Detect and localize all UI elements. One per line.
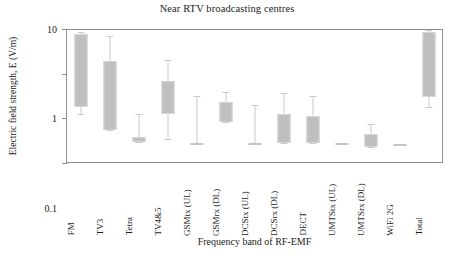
box-body	[364, 134, 377, 147]
box-plot-item[interactable]	[124, 29, 153, 163]
whisker-cap-low	[280, 143, 287, 144]
whisker-cap-high	[135, 114, 142, 115]
whisker-cap-high	[193, 96, 200, 97]
x-tick-label: DCSrx (DL)	[274, 212, 284, 257]
y-tick-label: 10	[47, 24, 57, 35]
x-tick-label: DCStx (UL)	[245, 213, 255, 258]
x-tick-label-text: Total	[414, 217, 424, 235]
box-body	[219, 102, 232, 122]
box-body-flat	[335, 143, 348, 145]
box-plot-item[interactable]	[269, 29, 298, 163]
x-tick-label-text: GSMrx (DL)	[211, 189, 221, 236]
x-tick-label-text: UMTSrx (DL)	[356, 183, 366, 236]
whisker-cap-high	[106, 36, 113, 37]
whisker-cap-low	[164, 139, 171, 140]
box-body-flat	[248, 143, 261, 145]
box-plot-item[interactable]	[95, 29, 124, 163]
x-tick-label-text: FM	[66, 222, 76, 235]
whisker-cap-high	[164, 60, 171, 61]
x-axis-tick-labels: FMTV3TetraTV4&5GSMtx (UL)GSMrx (DL)DCStx…	[66, 165, 443, 235]
plot-area: 1010.10.01	[66, 29, 443, 163]
whisker-cap-high	[425, 30, 432, 31]
x-tick-label: GSMtx (UL)	[187, 212, 197, 259]
y-tick-label: 1	[52, 113, 57, 124]
x-tick-label-text: TV4&5	[153, 208, 163, 236]
y-tick-label: 0.1	[45, 202, 58, 213]
whisker-cap-high	[309, 96, 316, 97]
box-plot-item[interactable]	[327, 29, 356, 163]
whisker-cap-low	[367, 147, 374, 148]
box-plot-item[interactable]	[414, 29, 443, 163]
box-body-flat	[190, 143, 203, 145]
whisker-cap-low	[425, 107, 432, 108]
x-tick-label: UMTStx (UL)	[332, 209, 342, 261]
whisker-cap-low	[106, 130, 113, 131]
x-tick-label-text: WiFi 2G	[385, 204, 395, 235]
box-plot-item[interactable]	[240, 29, 269, 163]
figure-container: Near RTV broadcasting centres Electric f…	[0, 0, 454, 262]
box-body	[74, 34, 87, 107]
x-tick-label-text: DCSrx (DL)	[269, 191, 279, 236]
whisker-cap-low	[309, 143, 316, 144]
box-body	[161, 81, 174, 114]
x-tick-label-text: TV3	[95, 219, 105, 236]
box-body	[277, 114, 290, 143]
box-plot-item[interactable]	[153, 29, 182, 163]
box-plot-item[interactable]	[298, 29, 327, 163]
y-axis-title-wrap: Electric field strength, E (V/m)	[6, 29, 20, 163]
x-tick-label-text: Tetra	[124, 217, 134, 235]
x-tick-label-text: DECT	[298, 212, 308, 236]
y-axis-title: Electric field strength, E (V/m)	[8, 37, 18, 155]
y-tick-mark: 0.01	[62, 163, 67, 164]
whisker-cap-high	[280, 93, 287, 94]
x-tick-label-text: UMTStx (UL)	[327, 184, 337, 236]
box-body	[103, 61, 116, 130]
x-tick-label-text: GSMtx (UL)	[182, 189, 192, 236]
x-tick-label-text: DCStx (UL)	[240, 191, 250, 236]
whisker-cap-low	[135, 142, 142, 143]
whisker-cap-high	[222, 92, 229, 93]
box-plot-item[interactable]	[211, 29, 240, 163]
whisker-cap-high	[251, 105, 258, 106]
whisker-cap-high	[367, 124, 374, 125]
whisker-cap-low	[222, 122, 229, 123]
chart-title: Near RTV broadcasting centres	[0, 3, 454, 14]
box-plot-item[interactable]	[182, 29, 211, 163]
box-body	[132, 137, 145, 142]
whisker-line	[196, 96, 197, 143]
box-body-flat	[393, 144, 406, 146]
box-body	[306, 116, 319, 143]
whisker-cap-low	[77, 114, 84, 115]
box-plot-item[interactable]	[385, 29, 414, 163]
box-plot-item[interactable]	[356, 29, 385, 163]
x-axis-title: Frequency band of RF-EMF	[66, 236, 443, 247]
box-plot-item[interactable]	[66, 29, 95, 163]
whisker-line	[254, 105, 255, 143]
x-tick-label: UMTSrx (DL)	[361, 209, 371, 262]
whisker-cap-high	[77, 32, 84, 33]
x-tick-label: GSMrx (DL)	[216, 211, 226, 258]
box-body	[422, 32, 435, 97]
